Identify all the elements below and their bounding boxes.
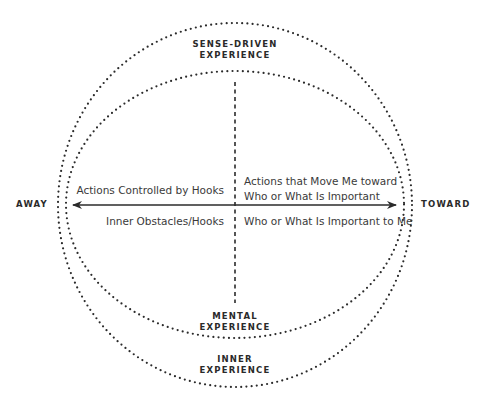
quadrant-bottom-left: Inner Obstacles/Hooks <box>106 214 224 229</box>
inner-label-line2: EXPERIENCE <box>185 365 285 376</box>
mental-label-line1: MENTAL <box>185 311 285 322</box>
matrix-diagram <box>0 0 486 404</box>
actions-toward-line1: Actions that Move Me toward <box>244 174 397 189</box>
quadrant-top-right: Actions that Move Me toward Who or What … <box>244 174 397 204</box>
actions-controlled-by-hooks: Actions Controlled by Hooks <box>76 184 224 196</box>
toward-label-text: TOWARD <box>421 199 470 209</box>
mental-experience-label: MENTAL EXPERIENCE <box>185 311 285 332</box>
inner-obstacles-hooks: Inner Obstacles/Hooks <box>106 215 224 227</box>
quadrant-top-left: Actions Controlled by Hooks <box>76 183 224 198</box>
inner-experience-label: INNER EXPERIENCE <box>185 354 285 375</box>
away-label: AWAY <box>16 199 48 210</box>
actions-toward-line2: Who or What Is Important <box>244 189 397 204</box>
quadrant-bottom-right: Who or What Is Important to Me <box>244 214 413 229</box>
sense-driven-label-line2: EXPERIENCE <box>185 50 285 61</box>
mental-label-line2: EXPERIENCE <box>185 322 285 333</box>
sense-driven-experience-label: SENSE-DRIVEN EXPERIENCE <box>185 39 285 60</box>
toward-label: TOWARD <box>421 199 470 210</box>
sense-driven-label-line1: SENSE-DRIVEN <box>185 39 285 50</box>
inner-label-line1: INNER <box>185 354 285 365</box>
who-or-what-important: Who or What Is Important to Me <box>244 215 413 227</box>
away-label-text: AWAY <box>16 199 48 209</box>
